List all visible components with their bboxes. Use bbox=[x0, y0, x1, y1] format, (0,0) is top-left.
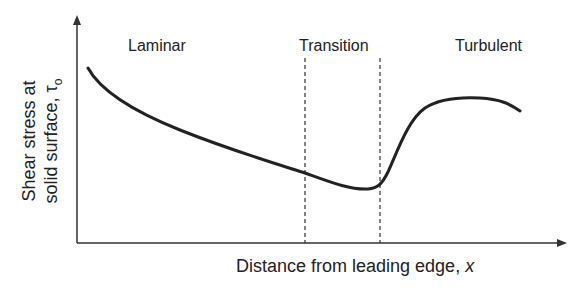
shear-stress-curve bbox=[88, 68, 520, 189]
y-axis-arrow-icon bbox=[73, 15, 81, 25]
x-axis bbox=[77, 239, 567, 247]
x-axis-label: Distance from leading edge, x bbox=[236, 256, 474, 277]
region-label-turbulent: Turbulent bbox=[455, 37, 522, 55]
region-label-transition: Transition bbox=[299, 37, 369, 55]
region-label-laminar: Laminar bbox=[128, 37, 186, 55]
y-axis-label: Shear stress at solid surface, τo bbox=[18, 56, 69, 226]
y-axis-label-line1: Shear stress at bbox=[18, 56, 40, 226]
x-axis-arrow-icon bbox=[557, 239, 567, 247]
y-axis-label-line2: solid surface, τo bbox=[40, 56, 69, 226]
y-axis bbox=[73, 15, 81, 243]
